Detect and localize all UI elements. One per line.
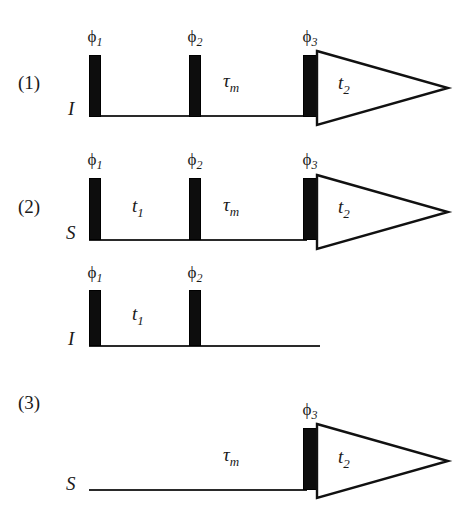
acquisition-index: 2: [343, 206, 350, 221]
channel-label-4: S: [66, 473, 76, 495]
pulse-bar-row2-phi1: [89, 178, 101, 240]
pulse-bar-row4-phi3: [303, 428, 317, 490]
delay-label-row4-taum: τm: [223, 444, 239, 470]
phase-label-row4-phi3: ϕ3: [293, 400, 327, 423]
acquisition-label-row-2: t2: [338, 196, 350, 222]
phase-index: 3: [311, 158, 317, 172]
channel-label-1: I: [68, 98, 74, 120]
phase-label-row1-phi2: ϕ2: [178, 27, 212, 50]
phase-index: 1: [96, 271, 102, 285]
pulse-bar-row1-phi1: [89, 55, 101, 117]
phase-label-row1-phi1: ϕ1: [78, 27, 112, 50]
sequence-number-1: (1): [18, 72, 40, 94]
pulse-bar-row2-phi3: [303, 178, 317, 240]
phase-label-row2-phi1: ϕ1: [78, 150, 112, 173]
baseline-row-3: [89, 345, 320, 347]
phase-index: 2: [196, 158, 202, 172]
sequence-number-3: (3): [18, 392, 40, 414]
channel-label-2: S: [66, 222, 76, 244]
delay-index: m: [230, 454, 239, 469]
delay-label-row2-taum: τm: [223, 194, 239, 220]
delay-index: 1: [137, 313, 144, 328]
phase-label-row3-phi2: ϕ2: [178, 263, 212, 286]
delay-symbol: τ: [223, 70, 230, 91]
phase-index: 1: [96, 35, 102, 49]
delay-label-row1-taum: τm: [223, 70, 239, 96]
delay-symbol: τ: [223, 444, 230, 465]
fid-triangle-row-4: [316, 421, 450, 501]
delay-index: m: [230, 204, 239, 219]
phase-index: 2: [196, 35, 202, 49]
phase-label-row3-phi1: ϕ1: [78, 263, 112, 286]
fid-triangle-row-2: [316, 172, 450, 252]
pulse-bar-row1-phi2: [189, 55, 201, 117]
phase-label-row1-phi3: ϕ3: [293, 27, 327, 50]
acquisition-index: 2: [343, 456, 350, 471]
delay-label-row2-t1: t1: [132, 195, 144, 221]
baseline-row-4: [89, 489, 307, 491]
channel-label-3: I: [68, 328, 74, 350]
phase-label-row2-phi3: ϕ3: [293, 150, 327, 173]
delay-index: 1: [137, 205, 144, 220]
delay-label-row3-t1: t1: [132, 303, 144, 329]
fid-triangle-row-1: [316, 48, 450, 128]
delay-symbol: τ: [223, 194, 230, 215]
delay-index: m: [230, 80, 239, 95]
acquisition-index: 2: [343, 82, 350, 97]
phase-label-row2-phi2: ϕ2: [178, 150, 212, 173]
phase-index: 2: [196, 271, 202, 285]
acquisition-label-row-1: t2: [338, 72, 350, 98]
acquisition-label-row-4: t2: [338, 446, 350, 472]
sequence-number-2: (2): [18, 196, 40, 218]
pulse-bar-row1-phi3: [303, 55, 317, 117]
pulse-sequence-figure: (1) I ϕ1 ϕ2 ϕ3 τm t2 (2) S ϕ1 ϕ2 ϕ3 t1 τ…: [0, 0, 472, 513]
phase-index: 1: [96, 158, 102, 172]
pulse-bar-row3-phi1: [89, 290, 101, 346]
pulse-bar-row2-phi2: [189, 178, 201, 240]
pulse-bar-row3-phi2: [189, 290, 201, 346]
